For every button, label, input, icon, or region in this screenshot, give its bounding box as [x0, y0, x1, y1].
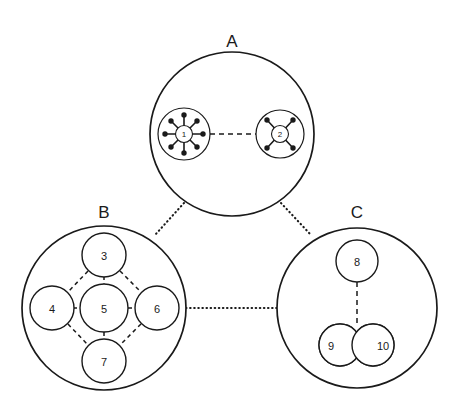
cluster-B-label: B	[98, 203, 109, 222]
node-4-group[interactable]: 4	[30, 286, 74, 330]
node-2-label: 2	[278, 130, 283, 139]
network-diagram: A	[0, 0, 463, 415]
cluster-C-label: C	[351, 203, 363, 222]
node-10-label: 10	[377, 340, 389, 352]
cluster-A-label: A	[226, 32, 238, 51]
node-8-label: 8	[354, 256, 360, 268]
node-6-label: 6	[154, 303, 160, 315]
node-9-label: 9	[328, 340, 334, 352]
node-1-group[interactable]: 1	[158, 108, 210, 160]
node-7-label: 7	[101, 356, 107, 368]
edge-A-B	[155, 203, 184, 235]
node-5-group[interactable]: 5	[80, 284, 128, 332]
node-3-label: 3	[101, 250, 107, 262]
diagram-canvas: A	[0, 0, 463, 415]
cluster-A[interactable]: A	[150, 32, 314, 216]
node-4-label: 4	[49, 303, 55, 315]
edge-A-C	[281, 203, 311, 235]
node-6-group[interactable]: 6	[135, 286, 179, 330]
node-1-label: 1	[182, 130, 187, 139]
node-5-label: 5	[101, 303, 107, 315]
node-7-group[interactable]: 7	[82, 339, 126, 383]
node-2-group[interactable]: 2	[256, 110, 304, 158]
node-3-group[interactable]: 3	[82, 233, 126, 277]
cluster-C[interactable]: C 8 9 10	[277, 203, 437, 388]
node-8-group[interactable]: 8	[336, 240, 378, 282]
cluster-B[interactable]: B 3 4 5	[22, 203, 186, 390]
